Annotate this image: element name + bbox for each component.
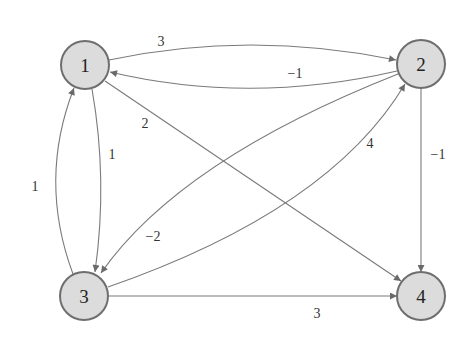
- edge-label-3-to-1: 1: [32, 179, 39, 194]
- edge-label-1-to-2: 3: [158, 34, 165, 49]
- node-label-1: 1: [80, 55, 90, 76]
- edge-3-to-1: [56, 88, 74, 274]
- node-label-2: 2: [416, 54, 426, 75]
- node-1: 1: [61, 41, 109, 89]
- node-3: 3: [60, 272, 108, 320]
- edge-label-1-to-3: 1: [109, 147, 116, 162]
- edge-label-3-to-4: 3: [314, 306, 321, 321]
- edge-label-1-to-4: 2: [142, 116, 149, 131]
- edge-3-to-2: [108, 84, 405, 287]
- edge-1-to-2: [109, 45, 396, 60]
- node-label-3: 3: [79, 286, 89, 307]
- edge-2-to-1: [110, 71, 397, 88]
- edge-1-to-4: [105, 81, 401, 281]
- edge-1-to-3: [92, 89, 101, 272]
- node-2: 2: [397, 40, 445, 88]
- edge-label-2-to-1: −1: [288, 66, 303, 81]
- node-4: 4: [397, 272, 445, 320]
- edge-label-2-to-4: −1: [431, 147, 446, 162]
- edge-label-2-to-3: −2: [146, 229, 161, 244]
- edge-label-3-to-2: 4: [367, 136, 374, 151]
- graph-canvas: 3 −1 1 1 2 −2 4 −1 3 1 2 3 4: [0, 0, 476, 346]
- node-label-4: 4: [416, 286, 426, 307]
